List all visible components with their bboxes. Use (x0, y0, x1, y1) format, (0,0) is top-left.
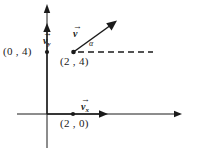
label-point-0-4: (0 , 4) (3, 46, 32, 57)
point-marker-0-4 (45, 50, 49, 54)
label-vector-y: → vy (43, 31, 51, 48)
diagram-canvas (0, 0, 198, 153)
point-marker-2-0 (71, 112, 75, 116)
vector-x-arrowhead-icon (99, 110, 108, 118)
vector-diagram: (0 , 4) (2 , 4) (2 , 0) → v → vx → vy α (0, 0, 198, 153)
y-axis-arrowhead-icon (44, 4, 50, 13)
label-angle-alpha: α (89, 40, 93, 48)
point-marker-2-4 (71, 50, 76, 55)
label-vector-x: → vx (81, 97, 89, 114)
label-point-2-4: (2 , 4) (60, 56, 89, 67)
label-vector-y-subscript: y (47, 40, 50, 48)
vector-main-arrowhead-icon (106, 21, 117, 31)
label-vector-main-text: v (73, 28, 77, 39)
label-vector-x-subscript: x (85, 106, 89, 114)
x-axis-arrowhead-icon (174, 111, 182, 117)
label-vector-main: → v (73, 24, 81, 39)
label-point-2-0: (2 , 0) (60, 118, 89, 129)
